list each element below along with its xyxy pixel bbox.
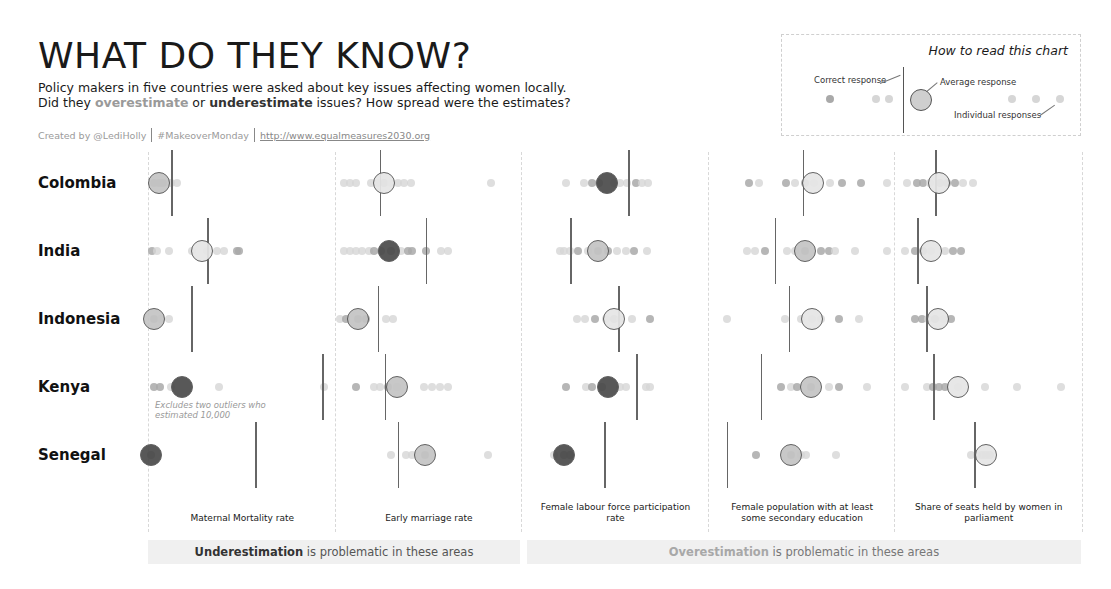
individual-response-dot bbox=[855, 315, 863, 323]
legend-dot bbox=[826, 95, 834, 103]
individual-response-dot bbox=[408, 247, 416, 255]
average-response-circle bbox=[191, 240, 213, 262]
column-label: Maternal Mortality rate bbox=[149, 513, 336, 524]
individual-response-dot bbox=[783, 247, 791, 255]
credit-separator bbox=[254, 128, 255, 142]
individual-response-dot bbox=[752, 451, 760, 459]
individual-response-dot bbox=[646, 315, 654, 323]
individual-response-dot bbox=[802, 451, 810, 459]
correct-response-line bbox=[570, 218, 572, 284]
correct-response-line bbox=[933, 354, 935, 420]
average-response-circle bbox=[140, 444, 162, 466]
individual-response-dot bbox=[484, 451, 492, 459]
individual-response-dot bbox=[562, 383, 570, 391]
credits: Created by @LediHolly #MakeoverMonday ht… bbox=[38, 128, 430, 142]
average-response-circle bbox=[143, 308, 165, 330]
individual-response-dot bbox=[389, 315, 397, 323]
average-response-circle bbox=[780, 444, 802, 466]
individual-response-dot bbox=[387, 451, 395, 459]
correct-response-line bbox=[191, 286, 193, 352]
issue-column: Early marriage rate bbox=[335, 152, 523, 532]
average-response-circle bbox=[378, 240, 400, 262]
individual-response-dot bbox=[883, 179, 891, 187]
individual-response-dot bbox=[376, 383, 384, 391]
individual-response-dot bbox=[835, 383, 843, 391]
individual-response-dot bbox=[832, 451, 840, 459]
individual-response-dot bbox=[723, 315, 731, 323]
row-label-india: India bbox=[38, 242, 80, 260]
legend-average-label: Average response bbox=[940, 77, 1016, 87]
average-response-circle bbox=[148, 172, 170, 194]
legend-dot bbox=[1056, 95, 1064, 103]
column-label: Share of seats held by women in parliame… bbox=[895, 502, 1082, 524]
individual-response-dot bbox=[745, 179, 753, 187]
individual-response-dot bbox=[165, 315, 173, 323]
individual-response-dot bbox=[857, 179, 865, 187]
individual-response-dot bbox=[831, 247, 839, 255]
row-label-senegal: Senegal bbox=[38, 446, 106, 464]
correct-response-line bbox=[917, 218, 919, 284]
individual-response-dot bbox=[156, 383, 164, 391]
individual-response-dot bbox=[643, 247, 651, 255]
correct-response-line bbox=[727, 422, 729, 488]
legend-dot bbox=[885, 95, 893, 103]
average-response-circle bbox=[920, 240, 942, 262]
subtitle-underestimate: underestimate bbox=[209, 95, 312, 110]
average-response-circle bbox=[373, 172, 395, 194]
individual-response-dot bbox=[949, 247, 957, 255]
correct-response-line bbox=[378, 286, 380, 352]
correct-response-line bbox=[636, 354, 638, 420]
average-response-circle bbox=[171, 376, 193, 398]
row-label-colombia: Colombia bbox=[38, 174, 116, 192]
individual-response-dot bbox=[838, 179, 846, 187]
individual-response-dot bbox=[863, 383, 871, 391]
individual-response-dot bbox=[574, 247, 582, 255]
column-label: Female population with at least some sec… bbox=[709, 502, 896, 524]
credit-tag: #MakeoverMonday bbox=[157, 130, 249, 141]
average-response-circle bbox=[801, 308, 823, 330]
credit-link[interactable]: http://www.equalmeasures2030.org bbox=[260, 130, 430, 141]
correct-response-line bbox=[398, 422, 400, 488]
individual-response-dot bbox=[782, 179, 790, 187]
legend-title: How to read this chart bbox=[929, 43, 1068, 58]
legend-dot bbox=[1008, 95, 1016, 103]
individual-response-dot bbox=[352, 179, 360, 187]
individual-response-dot bbox=[826, 179, 834, 187]
individual-response-dot bbox=[901, 383, 909, 391]
individual-response-dot bbox=[622, 383, 630, 391]
individual-response-dot bbox=[755, 179, 763, 187]
individual-response-dot bbox=[420, 383, 428, 391]
average-response-circle bbox=[800, 376, 822, 398]
individual-response-dot bbox=[959, 179, 967, 187]
individual-response-dot bbox=[623, 179, 631, 187]
individual-response-dot bbox=[562, 179, 570, 187]
row-label-indonesia: Indonesia bbox=[38, 310, 120, 328]
correct-response-line bbox=[761, 354, 763, 420]
individual-response-dot bbox=[573, 315, 581, 323]
band-under-bold: Underestimation bbox=[195, 545, 304, 559]
individual-response-dot bbox=[581, 315, 589, 323]
individual-response-dot bbox=[215, 383, 223, 391]
individual-response-dot bbox=[580, 179, 588, 187]
individual-response-dot bbox=[591, 315, 599, 323]
correct-response-line bbox=[604, 422, 606, 488]
individual-response-dot bbox=[1057, 383, 1065, 391]
legend-leader-line bbox=[1040, 105, 1055, 116]
individual-response-dot bbox=[851, 247, 859, 255]
individual-response-dot bbox=[644, 179, 652, 187]
individual-response-dot bbox=[444, 383, 452, 391]
average-response-circle bbox=[597, 376, 619, 398]
individual-response-dot bbox=[951, 179, 959, 187]
issue-column: Female labour force participation rate bbox=[521, 152, 709, 532]
individual-response-dot bbox=[901, 247, 909, 255]
individual-response-dot bbox=[352, 383, 360, 391]
average-response-circle bbox=[414, 444, 436, 466]
individual-response-dot bbox=[817, 247, 825, 255]
individual-response-dot bbox=[173, 179, 181, 187]
individual-response-dot bbox=[436, 383, 444, 391]
legend-box: How to read this chart Correct response … bbox=[781, 34, 1081, 136]
individual-response-dot bbox=[407, 179, 415, 187]
individual-response-dot bbox=[588, 383, 596, 391]
average-response-circle bbox=[587, 240, 609, 262]
individual-response-dot bbox=[903, 179, 911, 187]
